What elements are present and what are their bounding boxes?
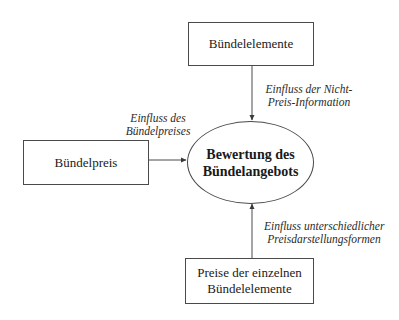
node-preise-einzeln-line1: Preise der einzelnen xyxy=(197,265,302,281)
edge-label-nicht-preis-information: Einfluss der Nicht- Preis-Information xyxy=(264,83,354,109)
node-bewertung: Bewertung des Bündelangebots xyxy=(187,121,314,204)
node-bewertung-line1: Bewertung des xyxy=(206,146,294,163)
edge-label-line: Preisdarstellungsformen xyxy=(264,233,384,246)
bundle-evaluation-diagram: Bündelelemente Bündelpreis Bewertung des… xyxy=(0,0,399,320)
edge-label-line: Einfluss unterschiedlicher xyxy=(264,220,384,233)
edge-label-buendelpreis: Einfluss des Bündelpreises xyxy=(124,112,192,138)
node-preise-einzeln: Preise der einzelnen Bündelelemente xyxy=(185,258,314,304)
node-buendelelemente-label: Bündelelemente xyxy=(209,36,293,52)
node-buendelpreis: Bündelpreis xyxy=(23,140,149,185)
node-bewertung-line2: Bündelangebots xyxy=(203,163,299,180)
node-buendelpreis-label: Bündelpreis xyxy=(55,155,118,171)
edge-label-line: Einfluss der Nicht- xyxy=(264,83,354,96)
edge-label-line: Bündelpreises xyxy=(124,125,192,138)
edge-label-line: Einfluss des xyxy=(124,112,192,125)
edge-label-preisdarstellungsformen: Einfluss unterschiedlicher Preisdarstell… xyxy=(264,220,384,246)
node-buendelelemente: Bündelelemente xyxy=(188,22,314,66)
edge-label-line: Preis-Information xyxy=(264,96,354,109)
node-preise-einzeln-line2: Bündelelemente xyxy=(207,281,291,297)
